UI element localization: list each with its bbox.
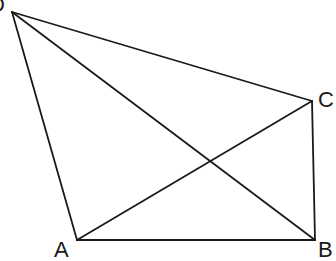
- segment-cb: [312, 101, 315, 240]
- edges-group: [12, 12, 315, 240]
- vertex-label-a: A: [54, 237, 69, 261]
- labels-group: DCAB: [0, 0, 334, 261]
- vertex-label-d: D: [0, 0, 5, 17]
- segment-ac: [77, 101, 312, 240]
- vertex-label-b: B: [318, 237, 333, 261]
- segment-da: [12, 12, 77, 240]
- geometry-figure: DCAB: [0, 0, 336, 261]
- vertex-label-c: C: [318, 87, 334, 112]
- segment-dc: [12, 12, 312, 101]
